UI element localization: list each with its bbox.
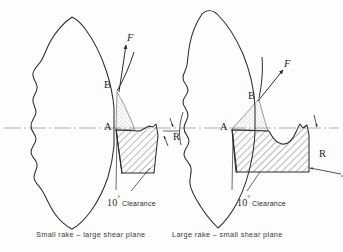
label-point-b-left: B — [104, 79, 111, 90]
chip-shear-zone-left — [116, 92, 135, 130]
clearance-value-left: 10 — [107, 197, 118, 208]
label-force-f-left: F — [127, 32, 133, 43]
label-point-a-left: A — [104, 121, 112, 132]
caption-right-panel: Large rake – small shear plane — [172, 230, 283, 239]
radius-dimension-right — [310, 115, 343, 177]
label-radius-r-left: R — [173, 131, 180, 142]
label-radius-r-right: R — [319, 148, 326, 159]
force-vector-left — [119, 45, 126, 92]
clearance-degree-right: ° — [248, 195, 250, 201]
clearance-callout-left: 10°Clearance — [107, 192, 156, 210]
chip-shear-zone-right — [232, 99, 268, 131]
cutting-tool-right — [232, 124, 309, 172]
machining-rake-angle-figure: A B F R 10°Clearance A B F R 10°Clearanc… — [0, 0, 343, 252]
caption-left-panel: Small rake – large shear plane — [36, 230, 145, 239]
clearance-callout-right: 10°Clearance — [237, 192, 286, 210]
clearance-text-right: Clearance — [252, 200, 286, 207]
workpiece-outline-left — [31, 17, 114, 229]
figure-drawing-canvas — [0, 0, 343, 252]
label-force-f-right: F — [284, 58, 290, 69]
clearance-value-right: 10 — [237, 197, 248, 208]
label-point-a-right: A — [220, 121, 228, 132]
label-point-b-right: B — [248, 90, 255, 101]
rake-face-curve-right — [259, 57, 262, 98]
cutting-tool-left — [116, 124, 158, 173]
clearance-degree-left: ° — [118, 195, 120, 201]
clearance-text-left: Clearance — [122, 200, 156, 207]
